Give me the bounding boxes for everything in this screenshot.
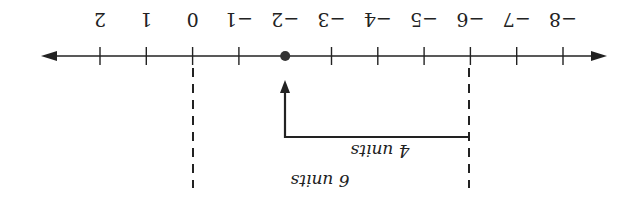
tick-label: −4 [364,9,392,31]
six-units-label: 6 units [290,171,349,191]
point-marker [280,51,290,61]
number-line-svg: −8−7−6−5−4−3−2−1012 4 units 6 units [0,0,635,207]
number-line-diagram: −8−7−6−5−4−3−2−1012 4 units 6 units [0,0,635,207]
four-units-arrow [285,89,469,137]
tick-label: 1 [140,9,152,31]
tick-label: −3 [317,9,345,31]
four-units-label: 4 units [350,141,410,161]
tick-label: −8 [549,9,577,31]
axis-right-arrowhead-icon [41,51,57,61]
tick-label: −2 [271,9,299,31]
arrowhead-icon [280,80,290,93]
tick-label: −1 [225,9,253,31]
tick-label: −6 [456,9,484,31]
tick-label: −7 [503,9,531,31]
tick-label: −5 [410,9,438,31]
rotated-diagram-group: −8−7−6−5−4−3−2−1012 4 units 6 units [41,9,607,191]
axis-left-arrowhead-icon [591,51,607,61]
tick-label: 2 [94,9,106,31]
tick-label: 0 [187,9,199,31]
